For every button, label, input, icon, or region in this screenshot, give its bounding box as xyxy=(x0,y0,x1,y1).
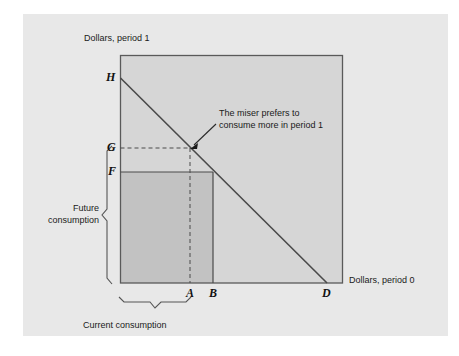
point-label-F: F xyxy=(108,164,116,179)
x-axis-label: Dollars, period 0 xyxy=(349,275,415,285)
figure-container: Dollars, period 1 Dollars, period 0 H G … xyxy=(0,0,459,356)
miser-annotation-line1: The miser prefers to xyxy=(219,108,323,120)
miser-annotation: The miser prefers to consume more in per… xyxy=(219,108,323,131)
point-label-G: G xyxy=(107,140,116,155)
current-consumption-brace xyxy=(119,297,191,308)
point-label-A: A xyxy=(186,286,194,301)
y-axis-label: Dollars, period 1 xyxy=(84,33,150,43)
point-label-B: B xyxy=(209,286,217,301)
point-label-D: D xyxy=(322,286,331,301)
future-consumption-label-line2: consumption xyxy=(15,215,99,227)
current-consumption-label: Current consumption xyxy=(83,320,167,331)
point-label-H: H xyxy=(106,70,115,85)
future-consumption-label-line1: Future xyxy=(15,203,99,215)
future-consumption-label: Future consumption xyxy=(15,203,99,226)
consumption-rectangle-shade xyxy=(121,172,214,283)
miser-annotation-line2: consume more in period 1 xyxy=(219,120,323,132)
diagram-graphics xyxy=(0,0,459,356)
